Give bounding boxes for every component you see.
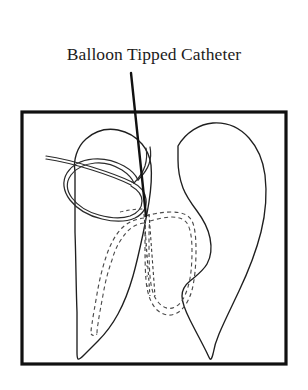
cardiac-silhouette-inner xyxy=(149,217,192,308)
page-title: Balloon Tipped Catheter xyxy=(0,44,308,65)
label-leader-line xyxy=(131,73,146,216)
image-border xyxy=(22,112,286,364)
catheter-loop-outer xyxy=(64,159,146,221)
cardiac-border-left-inner xyxy=(97,223,144,334)
figure-container: Balloon Tipped Catheter xyxy=(0,0,308,390)
cardiac-silhouette xyxy=(145,212,196,315)
catheter-distal-segment-right xyxy=(149,214,155,296)
mediastinal-dashed-margin xyxy=(120,209,144,212)
cardiac-border-left-tip xyxy=(91,334,97,336)
